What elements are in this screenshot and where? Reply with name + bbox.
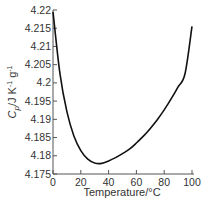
chart: 4.1754.184.1854.194.1954.24.2054.214.215… — [0, 0, 204, 204]
y-tick-label: 4.21 — [31, 40, 52, 52]
y-tick-label: 4.19 — [31, 113, 52, 125]
y-tick-label: 4.205 — [25, 58, 51, 70]
x-tick-label: 100 — [183, 176, 201, 188]
x-axis-title: Temperature/°C — [83, 186, 160, 198]
y-axis: 4.1754.184.1854.194.1954.24.2054.214.215… — [25, 4, 57, 180]
y-tick-label: 4.175 — [25, 168, 51, 180]
y-tick-label: 4.185 — [25, 131, 51, 143]
y-tick-label: 4.18 — [31, 149, 52, 161]
y-tick-label: 4.22 — [31, 4, 52, 16]
y-axis-title: Cp/J K-1 g-1 — [6, 65, 21, 118]
y-tick-label: 4.215 — [25, 22, 51, 34]
y-tick-label: 4.195 — [25, 95, 51, 107]
x-tick-label: 0 — [50, 176, 56, 188]
data-line — [53, 12, 192, 164]
y-tick-label: 4.2 — [36, 76, 51, 88]
